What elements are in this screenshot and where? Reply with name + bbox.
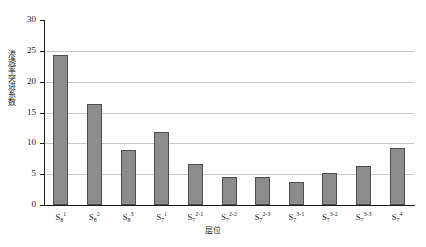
- bar: [188, 164, 203, 205]
- bar: [255, 177, 270, 205]
- bar-slot: [78, 20, 112, 205]
- bar: [87, 104, 102, 205]
- x-tick-label: S81: [44, 207, 78, 225]
- y-axis-title: 渗透率突进系数: [1, 50, 15, 106]
- x-tick-label: S72-3: [246, 207, 280, 225]
- bar-slot: [347, 20, 381, 205]
- x-tick-label: S72-1: [179, 207, 213, 225]
- bar: [53, 55, 68, 205]
- bar: [356, 166, 371, 205]
- bar-slot: [279, 20, 313, 205]
- y-tick-label: 0: [14, 199, 36, 209]
- bar-slot: [179, 20, 213, 205]
- y-tick-label: 30: [14, 14, 36, 24]
- bar-slot: [313, 20, 347, 205]
- bar-chart: 渗透率突进系数 051015202530 S81S82S83S71S72-1S7…: [0, 0, 426, 247]
- bar-slot: [246, 20, 280, 205]
- bar-slot: [212, 20, 246, 205]
- y-tick-label: 15: [14, 107, 36, 117]
- x-tick-label: S71: [145, 207, 179, 225]
- x-tick-label: S73-2: [313, 207, 347, 225]
- bar: [121, 150, 136, 205]
- y-tick-label: 25: [14, 45, 36, 55]
- x-axis-line: [44, 205, 415, 206]
- bar-slot: [380, 20, 414, 205]
- x-tick-label: S74: [380, 207, 414, 225]
- x-axis-tick-labels: S81S82S83S71S72-1S72-2S72-3S73-1S73-2S73…: [44, 207, 414, 225]
- bar: [322, 173, 337, 205]
- y-tick-label: 10: [14, 137, 36, 147]
- bar: [289, 182, 304, 205]
- x-axis-title: 层位: [0, 224, 426, 235]
- bar: [222, 177, 237, 205]
- x-tick-label: S83: [111, 207, 145, 225]
- bar: [390, 148, 405, 205]
- x-tick-label: S73-1: [279, 207, 313, 225]
- x-tick-label: S82: [78, 207, 112, 225]
- x-tick-label: S73-3: [347, 207, 381, 225]
- plot-area: [44, 20, 414, 205]
- bar-slot: [111, 20, 145, 205]
- y-tick-label: 5: [14, 168, 36, 178]
- y-tick-label: 20: [14, 76, 36, 86]
- bar-series: [44, 20, 414, 205]
- bar-slot: [145, 20, 179, 205]
- bar-slot: [44, 20, 78, 205]
- bar: [154, 132, 169, 205]
- x-tick-label: S72-2: [212, 207, 246, 225]
